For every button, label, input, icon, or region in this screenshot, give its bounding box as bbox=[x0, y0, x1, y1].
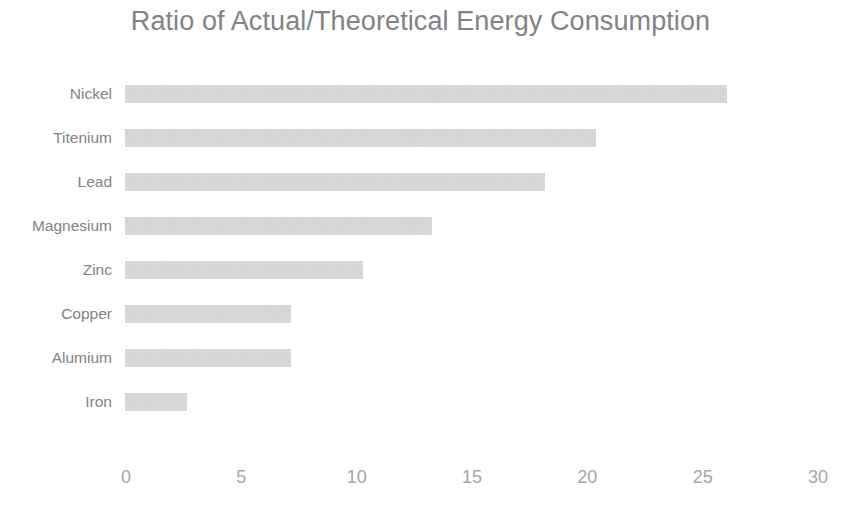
category-label: Lead bbox=[0, 174, 112, 190]
bar-track bbox=[125, 129, 596, 147]
plot-area: NickelTiteniumLeadMagnesiumZincCopperAlu… bbox=[0, 72, 841, 432]
category-label: Iron bbox=[0, 394, 112, 410]
x-axis: 051015202530 bbox=[0, 468, 841, 498]
bar bbox=[125, 305, 291, 323]
bar-track bbox=[125, 217, 432, 235]
category-label: Magnesium bbox=[0, 218, 112, 234]
bar-track bbox=[125, 261, 363, 279]
category-label: Nickel bbox=[0, 86, 112, 102]
bar-row: Zinc bbox=[0, 248, 841, 292]
category-label: Copper bbox=[0, 306, 112, 322]
bar-row: Iron bbox=[0, 380, 841, 424]
chart-title: Ratio of Actual/Theoretical Energy Consu… bbox=[0, 6, 841, 37]
category-label: Zinc bbox=[0, 262, 112, 278]
bar-row: Magnesium bbox=[0, 204, 841, 248]
bar-row: Copper bbox=[0, 292, 841, 336]
x-tick-label: 30 bbox=[808, 468, 828, 486]
bar-track bbox=[125, 173, 545, 191]
bar-row: Lead bbox=[0, 160, 841, 204]
bar-track bbox=[125, 85, 727, 103]
bar-track bbox=[125, 305, 291, 323]
x-tick-label: 15 bbox=[462, 468, 482, 486]
bar-row: Titenium bbox=[0, 116, 841, 160]
bar bbox=[125, 129, 596, 147]
bar bbox=[125, 217, 432, 235]
bar bbox=[125, 393, 187, 411]
bar bbox=[125, 261, 363, 279]
bar bbox=[125, 85, 727, 103]
bar-chart: Ratio of Actual/Theoretical Energy Consu… bbox=[0, 0, 841, 506]
x-tick-label: 25 bbox=[693, 468, 713, 486]
bar-track bbox=[125, 393, 187, 411]
category-label: Titenium bbox=[0, 130, 112, 146]
x-tick-label: 0 bbox=[121, 468, 131, 486]
bar-track bbox=[125, 349, 291, 367]
bar bbox=[125, 349, 291, 367]
x-tick-label: 20 bbox=[577, 468, 597, 486]
bar-row: Nickel bbox=[0, 72, 841, 116]
bar bbox=[125, 173, 545, 191]
bar-row: Alumium bbox=[0, 336, 841, 380]
x-tick-label: 5 bbox=[236, 468, 246, 486]
x-tick-label: 10 bbox=[347, 468, 367, 486]
category-label: Alumium bbox=[0, 350, 112, 366]
